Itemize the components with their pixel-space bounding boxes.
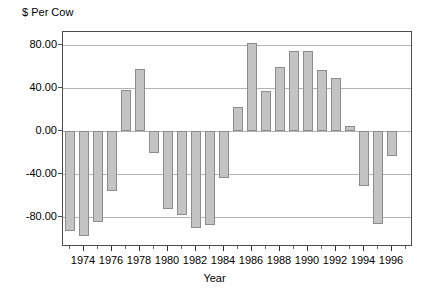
bar — [121, 90, 132, 131]
x-tick-mark-major — [335, 246, 336, 251]
x-tick-mark-minor — [69, 246, 70, 249]
x-tick-mark-minor — [377, 246, 378, 249]
bar — [303, 51, 314, 131]
bar — [359, 131, 370, 186]
bar — [275, 67, 286, 130]
x-tick-mark-major — [279, 246, 280, 251]
x-tick-mark-major — [83, 246, 84, 251]
x-tick-label: 1996 — [379, 254, 403, 266]
x-tick-label: 1990 — [295, 254, 319, 266]
y-gridline — [63, 217, 411, 218]
bar — [177, 131, 188, 215]
x-tick-mark-major — [223, 246, 224, 251]
bar — [373, 131, 384, 225]
x-tick-label: 1980 — [155, 254, 179, 266]
x-tick-label: 1986 — [239, 254, 263, 266]
bar — [163, 131, 174, 209]
bar — [191, 131, 202, 228]
y-gridline — [63, 88, 411, 89]
y-tick-mark — [58, 130, 62, 131]
x-tick-mark-minor — [125, 246, 126, 249]
bar — [233, 107, 244, 131]
y-axis-label: $ Per Cow — [22, 6, 73, 19]
bar — [219, 131, 230, 178]
y-tick-mark — [58, 216, 62, 217]
x-tick-mark-minor — [293, 246, 294, 249]
x-tick-mark-minor — [321, 246, 322, 249]
x-tick-label: 1976 — [99, 254, 123, 266]
bar — [289, 51, 300, 131]
x-tick-label: 1982 — [183, 254, 207, 266]
bar — [331, 78, 342, 131]
bar — [205, 131, 216, 226]
bar — [93, 131, 104, 222]
x-tick-mark-minor — [97, 246, 98, 249]
x-tick-label: 1994 — [351, 254, 375, 266]
bar — [247, 43, 258, 131]
x-tick-mark-minor — [265, 246, 266, 249]
bar — [261, 91, 272, 131]
y-tick-label: 40.00 — [29, 81, 57, 93]
bar — [317, 70, 328, 131]
plot-area — [62, 31, 412, 246]
x-tick-mark-major — [363, 246, 364, 251]
x-tick-mark-major — [111, 246, 112, 251]
y-tick-label: 80.00 — [29, 38, 57, 50]
bar — [107, 131, 118, 191]
x-tick-label: 1978 — [127, 254, 151, 266]
x-tick-mark-major — [391, 246, 392, 251]
x-tick-mark-minor — [153, 246, 154, 249]
bar — [345, 126, 356, 131]
x-tick-mark-minor — [209, 246, 210, 249]
x-tick-label: 1992 — [323, 254, 347, 266]
y-gridline — [63, 45, 411, 46]
y-tick-mark — [58, 173, 62, 174]
y-tick-label: 0.00 — [36, 124, 57, 136]
y-tick-label: -40.00 — [26, 167, 57, 179]
x-tick-mark-major — [195, 246, 196, 251]
x-axis-label: Year — [0, 272, 429, 284]
chart-figure: $ Per Cow 80.0040.000.00-40.00-80.001974… — [0, 0, 429, 298]
bar — [65, 131, 76, 231]
x-tick-label: 1988 — [267, 254, 291, 266]
bar — [387, 131, 398, 156]
bar — [79, 131, 90, 236]
y-tick-mark — [58, 87, 62, 88]
y-tick-mark — [58, 44, 62, 45]
x-tick-mark-minor — [405, 246, 406, 249]
x-tick-mark-major — [167, 246, 168, 251]
x-tick-mark-minor — [237, 246, 238, 249]
bar — [149, 131, 160, 154]
x-tick-mark-major — [251, 246, 252, 251]
bar — [135, 69, 146, 131]
x-tick-mark-major — [307, 246, 308, 251]
y-tick-label: -80.00 — [26, 210, 57, 222]
x-tick-label: 1974 — [71, 254, 95, 266]
x-tick-label: 1984 — [211, 254, 235, 266]
x-tick-mark-minor — [349, 246, 350, 249]
x-tick-mark-major — [139, 246, 140, 251]
x-tick-mark-minor — [181, 246, 182, 249]
